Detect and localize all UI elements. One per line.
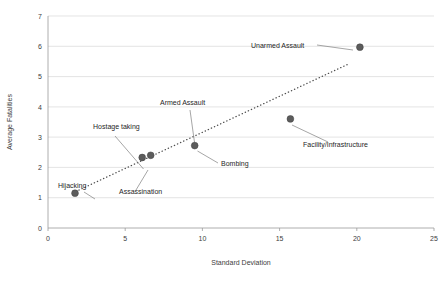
annotation-label-facility-infrastructure: Facility/Infrastructure [303,141,368,149]
data-point-assassination[interactable] [147,152,154,159]
x-tick-label-5: 5 [123,235,127,242]
x-tick-label-15: 15 [276,235,284,242]
data-point-unarmed-assault[interactable] [357,44,364,51]
plot-area-background [48,16,434,228]
y-tick-label-2: 2 [38,164,42,171]
y-tick-label-6: 6 [38,43,42,50]
y-tick-label-5: 5 [38,73,42,80]
annotation-label-armed-assault: Armed Assault [160,99,205,106]
y-tick-label-3: 3 [38,134,42,141]
annotation-label-unarmed-assault: Unarmed Assault [251,42,304,49]
x-axis-tick-labels: 0 5 10 15 20 25 [46,235,438,242]
y-axis-tick-labels: 7 6 5 4 3 2 1 0 [38,13,42,232]
data-point-facility-infrastructure[interactable] [287,116,294,123]
scatter-chart-figure: 7 6 5 4 3 2 1 0 0 5 10 15 20 25 Standard… [0,0,448,282]
y-tick-label-0: 0 [38,225,42,232]
y-tick-label-1: 1 [38,194,42,201]
x-axis-title: Standard Deviation [211,259,271,266]
x-axis-tick-marks [48,228,434,231]
chart-canvas: 7 6 5 4 3 2 1 0 0 5 10 15 20 25 Standard… [0,0,448,282]
annotation-label-hijacking: Hijacking [58,182,87,190]
x-tick-label-0: 0 [46,235,50,242]
annotation-label-bombing: Bombing [221,160,249,168]
x-tick-label-25: 25 [430,235,438,242]
data-point-hijacking[interactable] [72,190,79,197]
x-tick-label-20: 20 [353,235,361,242]
y-axis-title: Average Fatalities [6,94,14,150]
data-point-hostage-taking[interactable] [139,154,146,161]
annotation-label-assassination: Assassination [119,188,162,195]
data-point-armed-assault[interactable] [191,142,198,149]
y-tick-label-4: 4 [38,104,42,111]
y-tick-label-7: 7 [38,13,42,20]
x-tick-label-10: 10 [199,235,207,242]
annotation-label-hostage-taking: Hostage taking [93,123,140,131]
